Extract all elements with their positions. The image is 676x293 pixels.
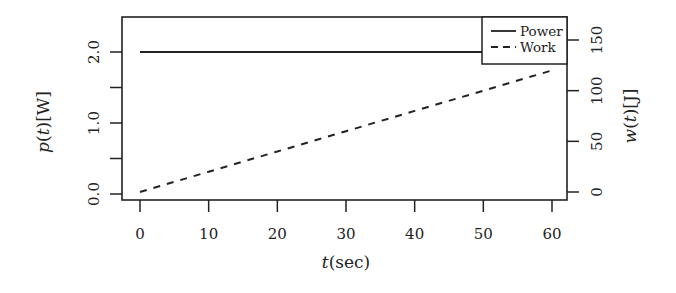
legend: Power Work	[482, 17, 567, 64]
y2-tick-label: 100	[588, 76, 606, 105]
x-tick-label: 10	[199, 225, 218, 243]
y2-tick-label: 0	[588, 187, 606, 197]
x-tick-label: 0	[135, 225, 145, 243]
x-tick-label: 30	[336, 225, 355, 243]
x-tick-label: 50	[474, 225, 493, 243]
x-axis: 0102030405060	[135, 200, 561, 243]
x-axis-title: t(sec)	[322, 252, 370, 272]
y2-axis-title: w(t)[J]	[620, 89, 640, 144]
chart: 0102030405060 0.01.02.0 050100150 t(sec)…	[0, 0, 676, 293]
series-work-line	[140, 70, 552, 192]
y-axis-right: 050100150	[567, 26, 606, 197]
y-tick-label: 0.0	[85, 182, 103, 206]
y2-tick-label: 50	[588, 132, 606, 151]
legend-label-work: Work	[520, 39, 557, 55]
y-axis-left: 0.01.02.0	[85, 40, 122, 206]
x-tick-label: 40	[405, 225, 424, 243]
x-tick-label: 20	[268, 225, 287, 243]
series-layer	[140, 52, 552, 192]
legend-label-power: Power	[520, 23, 563, 39]
y-axis-title: p(t)[W]	[33, 91, 53, 153]
y-tick-label: 2.0	[85, 40, 103, 64]
y-tick-label: 1.0	[85, 111, 103, 135]
y2-tick-label: 150	[588, 26, 606, 55]
x-tick-label: 60	[542, 225, 561, 243]
